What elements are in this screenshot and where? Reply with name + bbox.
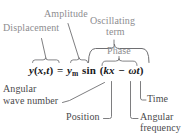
leader-line-amplitude	[68, 24, 79, 59]
label-angular-wave-number-line2: wave number	[3, 96, 58, 106]
brace-displacement	[33, 58, 60, 63]
wave-equation-annotated-figure: Displacement Amplitude Oscillating term …	[0, 0, 186, 135]
label-oscillating-term-line1: Oscillating	[90, 16, 135, 26]
label-displacement: Displacement	[3, 23, 59, 33]
equation-minus-sign: −	[118, 64, 124, 76]
equation-omega-symbol: ω	[128, 64, 136, 76]
label-position: Position	[66, 112, 100, 122]
label-angular-frequency-line2: frequency	[140, 123, 181, 133]
leader-line-angular-wave-number	[63, 83, 105, 103]
label-time: Time	[147, 94, 168, 104]
label-angular-frequency-line1: Angular	[140, 112, 173, 122]
label-amplitude: Amplitude	[44, 9, 88, 19]
wave-equation: y(x,t) = ym sin (kx − ωt)	[29, 64, 143, 78]
label-oscillating-term-line2: term	[106, 27, 125, 37]
leader-line-position	[104, 82, 112, 119]
equation-position-symbol: x	[109, 64, 115, 76]
leader-line-time	[141, 82, 147, 101]
leader-line-displacement	[42, 39, 47, 59]
equation-phase-close-paren: )	[140, 64, 144, 76]
brace-amplitude	[71, 58, 88, 63]
leader-line-angular-frequency	[131, 82, 139, 119]
label-phase: Phase	[107, 46, 131, 56]
equation-sine-function: sin	[82, 64, 96, 76]
label-angular-wave-number-line1: Angular	[3, 84, 36, 94]
